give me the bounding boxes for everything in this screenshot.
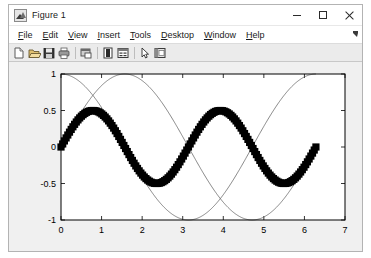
x-tick-label: 1 — [99, 225, 104, 235]
menu-item-desktop-rest: esktop — [167, 30, 194, 40]
menu-item-file-rest: ile — [24, 30, 33, 40]
menu-item-insert-rest: nsert — [100, 30, 120, 40]
link-plot-icon[interactable] — [79, 46, 93, 60]
maximize-button[interactable] — [310, 5, 336, 25]
menu-item-edit[interactable]: Edit — [38, 29, 64, 41]
menu-item-tools-rest: ools — [134, 30, 151, 40]
toolbar-separator-3 — [134, 47, 135, 59]
menu-item-help-rest: elp — [253, 30, 265, 40]
figure-canvas-area: 01234567-1-0.500.51 — [9, 62, 362, 251]
close-icon — [345, 11, 354, 20]
matlab-figure-icon — [14, 9, 27, 22]
plot-canvas[interactable]: 01234567-1-0.500.51 — [17, 64, 357, 250]
menu-item-view[interactable]: View — [63, 29, 92, 41]
window-controls — [284, 5, 362, 25]
menu-item-view-rest: iew — [74, 30, 88, 40]
menu-item-edit-rest: dit — [49, 30, 59, 40]
toolbar-separator-1 — [75, 47, 76, 59]
open-file-icon[interactable] — [27, 46, 41, 60]
menu-item-desktop[interactable]: Desktop — [156, 29, 199, 41]
menu-item-file[interactable]: File — [13, 29, 38, 41]
menu-item-window[interactable]: Window — [199, 29, 241, 41]
edit-plot-icon[interactable] — [138, 46, 152, 60]
x-tick-label: 3 — [180, 225, 185, 235]
close-button[interactable] — [336, 5, 362, 25]
window-title: Figure 1 — [32, 10, 66, 20]
insert-legend-icon[interactable] — [116, 46, 130, 60]
minimize-icon — [293, 15, 301, 16]
print-figure-icon[interactable] — [57, 46, 71, 60]
x-tick-label: 4 — [221, 225, 226, 235]
x-tick-label: 7 — [342, 225, 347, 235]
y-tick-label: -0.5 — [40, 179, 56, 189]
new-figure-icon[interactable] — [12, 46, 26, 60]
y-tick-label: 0.5 — [43, 106, 56, 116]
y-tick-label: 0 — [51, 142, 56, 152]
x-tick-label: 0 — [58, 225, 63, 235]
y-tick-label: -1 — [48, 215, 56, 225]
plot-svg: 01234567-1-0.500.51 — [17, 64, 357, 250]
x-tick-label: 5 — [261, 225, 266, 235]
menu-item-window-rest: indow — [212, 30, 236, 40]
menu-overflow-arrow-icon[interactable] — [350, 31, 358, 39]
toolbar-separator-2 — [97, 47, 98, 59]
menu-item-help[interactable]: Help — [241, 29, 270, 41]
insert-colorbar-icon[interactable] — [101, 46, 115, 60]
figure-window: Figure 1 File Edit View Insert Tools Des… — [8, 4, 363, 252]
menu-item-tools[interactable]: Tools — [125, 29, 156, 41]
plot-background — [61, 74, 345, 220]
title-bar: Figure 1 — [9, 5, 362, 26]
save-figure-icon[interactable] — [42, 46, 56, 60]
tool-bar — [9, 43, 362, 62]
show-plot-tools-icon[interactable] — [153, 46, 167, 60]
y-tick-label: 1 — [51, 69, 56, 79]
menu-item-insert[interactable]: Insert — [92, 29, 125, 41]
minimize-button[interactable] — [284, 5, 310, 25]
maximize-icon — [319, 11, 327, 19]
x-tick-label: 2 — [140, 225, 145, 235]
menu-bar: File Edit View Insert Tools Desktop Wind… — [9, 26, 362, 43]
x-tick-label: 6 — [302, 225, 307, 235]
